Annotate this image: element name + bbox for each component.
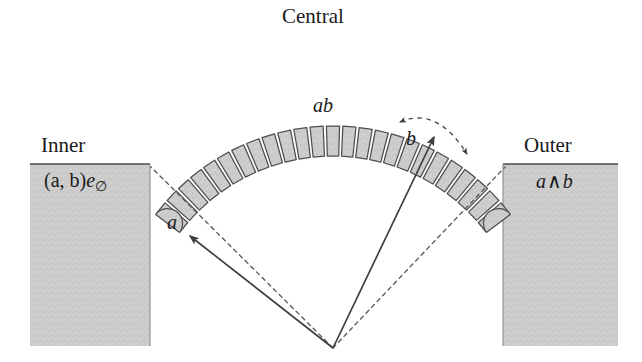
- central-label: Central: [282, 6, 344, 27]
- outer-product-formula: a∧b: [536, 171, 573, 191]
- outer-formula-right: b: [563, 170, 573, 192]
- dashed-line-b-extension: [333, 167, 505, 348]
- inner-formula-basis: e: [86, 169, 95, 191]
- central-product-tile: [356, 128, 373, 159]
- vector-a-label: a: [167, 212, 177, 232]
- geometric-product-label: ab: [313, 95, 333, 115]
- vector-b-arrow: [333, 137, 434, 348]
- vector-a-arrow: [190, 236, 333, 348]
- outer-label: Outer: [524, 135, 572, 156]
- central-product-tile-arc: [157, 126, 510, 231]
- central-product-tile: [310, 126, 324, 157]
- geometric-product-diagram: Central Inner Outer ab (a, b)e∅ a∧b a b: [0, 0, 642, 362]
- inner-product-formula: (a, b)e∅: [44, 170, 107, 193]
- dashed-line-a-extension: [151, 167, 333, 348]
- central-product-tile: [294, 128, 311, 159]
- central-product-tile: [326, 126, 339, 156]
- inner-formula-subscript: ∅: [95, 179, 107, 194]
- wedge-operator-icon: ∧: [546, 170, 563, 192]
- vector-b-label: b: [406, 128, 416, 148]
- inner-label: Inner: [41, 135, 85, 156]
- inner-formula-pair: (a, b): [44, 169, 86, 191]
- arc-end-caps: [156, 209, 511, 233]
- outer-formula-left: a: [536, 170, 546, 192]
- central-product-tile: [342, 126, 356, 157]
